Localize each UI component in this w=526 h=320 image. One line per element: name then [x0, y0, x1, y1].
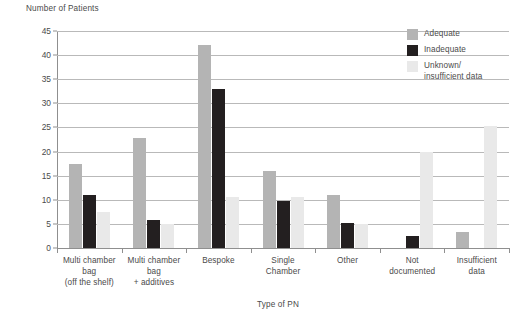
legend-label: Adequate	[424, 29, 460, 40]
legend-item: Unknown/ insufficient data	[407, 61, 525, 82]
bar	[291, 197, 304, 248]
legend-item: Inadequate	[407, 45, 525, 56]
bar	[327, 195, 340, 248]
x-tick	[251, 248, 252, 253]
y-tick-label-25: 25	[42, 122, 51, 132]
bar	[97, 212, 110, 248]
y-axis-title: Number of Patients	[26, 4, 99, 13]
x-tick	[315, 248, 316, 253]
x-tick	[380, 248, 381, 253]
x-axis-label: Bespoke	[186, 255, 251, 288]
bar-group	[186, 31, 251, 248]
bar	[161, 224, 174, 248]
legend-swatch	[407, 45, 418, 56]
y-tick-label-5: 5	[46, 219, 51, 229]
x-axis-label: Multi chamberbag+ additives	[122, 255, 187, 288]
bar	[198, 45, 211, 248]
bar	[420, 152, 433, 248]
x-axis-labels: Multi chamberbag(off the shelf)Multi cha…	[57, 255, 509, 288]
x-axis-label: SingleChamber	[251, 255, 316, 288]
bar-group	[251, 31, 316, 248]
bar-chart: Number of Patients 051015202530354045 Mu…	[0, 0, 526, 320]
x-axis-label: Insufficientdata	[444, 255, 509, 288]
legend-label: Unknown/ insufficient data	[424, 61, 482, 82]
bar	[83, 195, 96, 248]
y-tick-label-35: 35	[42, 74, 51, 84]
bar	[355, 224, 368, 248]
x-axis-title: Type of PN	[0, 300, 526, 309]
legend-label: Inadequate	[424, 45, 466, 56]
y-tick-label-30: 30	[42, 98, 51, 108]
bar	[456, 232, 469, 248]
legend-swatch	[407, 61, 418, 72]
bar	[212, 89, 225, 248]
x-tick	[509, 248, 510, 253]
bar-group	[57, 31, 122, 248]
bar	[226, 197, 239, 248]
x-tick	[57, 248, 58, 253]
bar	[147, 220, 160, 248]
chart-legend: AdequateInadequateUnknown/ insufficient …	[407, 29, 525, 87]
x-axis-label: Other	[315, 255, 380, 288]
legend-item: Adequate	[407, 29, 525, 40]
y-tick-label-0: 0	[46, 243, 51, 253]
bar-group	[122, 31, 187, 248]
x-tick	[122, 248, 123, 253]
bar	[484, 126, 497, 248]
bar	[69, 164, 82, 248]
x-axis-ticks	[57, 248, 509, 253]
y-tick-label-40: 40	[42, 50, 51, 60]
bar	[277, 201, 290, 248]
bar-group	[315, 31, 380, 248]
x-tick	[186, 248, 187, 253]
y-tick-label-20: 20	[42, 147, 51, 157]
y-tick-label-45: 45	[42, 26, 51, 36]
legend-swatch	[407, 29, 418, 40]
y-tick-label-15: 15	[42, 171, 51, 181]
x-axis-label: Multi chamberbag(off the shelf)	[57, 255, 122, 288]
x-axis-label: Notdocumented	[380, 255, 445, 288]
bar	[133, 138, 146, 248]
x-tick	[444, 248, 445, 253]
bar	[263, 171, 276, 248]
bar	[341, 223, 354, 248]
bar	[406, 236, 419, 248]
y-tick-label-10: 10	[42, 195, 51, 205]
